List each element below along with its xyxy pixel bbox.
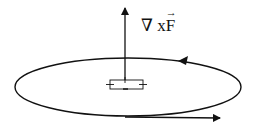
vector-f: →F bbox=[166, 16, 175, 36]
loop-direction-arrowhead-icon bbox=[178, 56, 188, 65]
cross-symbol: x bbox=[157, 16, 166, 35]
loop-ellipse bbox=[15, 58, 241, 116]
nabla-symbol: ∇ bbox=[141, 16, 153, 35]
curl-diagram bbox=[0, 0, 256, 130]
tangent-arrow bbox=[125, 117, 220, 118]
vector-f-letter: F bbox=[166, 16, 175, 35]
small-loop-rectangle bbox=[110, 80, 143, 89]
curl-label: ∇ x→F bbox=[141, 15, 175, 36]
vector-arrow-icon: → bbox=[166, 7, 177, 18]
